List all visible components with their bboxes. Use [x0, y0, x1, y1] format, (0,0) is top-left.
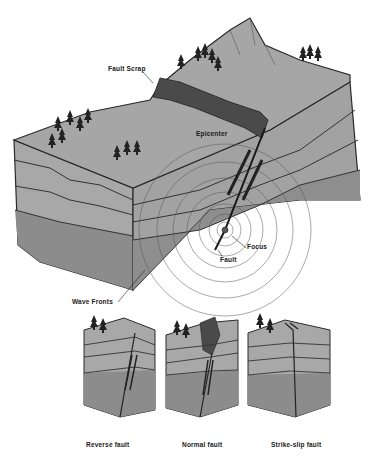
focus-label: Focus: [247, 243, 267, 250]
reverse-fault-block: [84, 315, 155, 417]
normal-fault-label: Normal fault: [182, 441, 222, 448]
wave-fronts-label: Wave Fronts: [72, 298, 113, 305]
fault-label: Fault: [220, 256, 237, 263]
main-block: [14, 18, 360, 316]
fault-diagram: [0, 0, 377, 458]
normal-fault-block: [166, 317, 238, 417]
epicenter-label: Epicenter: [196, 130, 227, 137]
strike-slip-fault-label: Strike-slip fault: [271, 441, 321, 448]
fault-scrap-label: Fault Scrap: [108, 65, 146, 72]
reverse-fault-label: Reverse fault: [86, 441, 129, 448]
strike-slip-fault-block: [248, 313, 330, 417]
